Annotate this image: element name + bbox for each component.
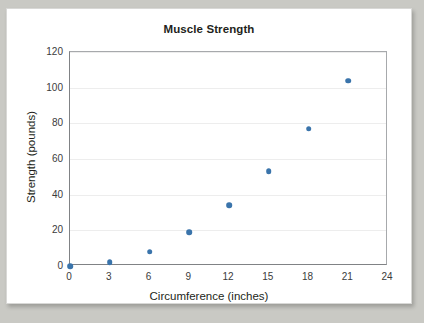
- data-point: [345, 78, 351, 84]
- data-point: [266, 169, 272, 175]
- x-axis-label: Circumference (inches): [7, 290, 411, 302]
- y-tick-label: 120: [23, 46, 63, 57]
- gridline: [70, 230, 386, 231]
- y-tick-label: 40: [23, 188, 63, 199]
- data-point: [67, 263, 73, 269]
- x-tick-label: 12: [208, 271, 248, 282]
- data-point: [147, 249, 153, 255]
- x-axis-tick-labels: 03691215182124: [69, 271, 387, 287]
- gridline: [70, 52, 386, 53]
- x-tick-label: 15: [248, 271, 288, 282]
- y-tick-label: 0: [23, 260, 63, 271]
- y-tick-label: 20: [23, 224, 63, 235]
- data-point: [107, 260, 113, 266]
- gridline: [70, 88, 386, 89]
- chart-title: Muscle Strength: [7, 23, 411, 35]
- x-tick-label: 21: [327, 271, 367, 282]
- y-axis-tick-labels: 020406080100120: [19, 51, 63, 265]
- gridline: [70, 123, 386, 124]
- x-tick-label: 24: [367, 271, 407, 282]
- y-tick-label: 80: [23, 117, 63, 128]
- gridline: [70, 159, 386, 160]
- plot-area: [69, 51, 387, 265]
- y-tick-label: 60: [23, 153, 63, 164]
- data-point: [226, 203, 232, 209]
- x-tick-label: 6: [129, 271, 169, 282]
- x-tick-label: 3: [89, 271, 129, 282]
- data-point: [306, 126, 312, 132]
- y-tick-label: 100: [23, 81, 63, 92]
- gridline: [70, 195, 386, 196]
- data-point: [186, 229, 192, 235]
- x-tick-label: 9: [168, 271, 208, 282]
- x-tick-label: 18: [288, 271, 328, 282]
- x-tick-label: 0: [49, 271, 89, 282]
- chart-card: Muscle Strength Strength (pounds) 020406…: [6, 8, 412, 304]
